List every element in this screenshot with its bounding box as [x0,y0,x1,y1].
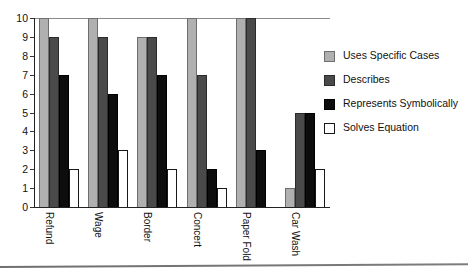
bar [187,18,197,207]
legend-label: Represents Symbolically [343,98,458,110]
bar-group [236,18,280,207]
bar [157,75,167,207]
x-axis-label: Car Wash [290,212,300,256]
x-axis-label: Paper Fold [241,212,251,261]
legend-label: Solves Equation [343,122,419,134]
bar [305,113,315,208]
y-tick-label: 6 [22,88,28,99]
legend-swatch-icon [324,75,335,86]
bar [147,37,157,207]
legend-item: Solves Equation [324,116,468,140]
bar [256,150,266,207]
chart-legend: Uses Specific CasesDescribesRepresents S… [324,44,468,140]
bar [98,37,108,207]
bar-group [137,18,181,207]
legend-swatch-icon [324,123,335,134]
y-tick-label: 5 [22,107,28,118]
bar [246,18,256,207]
y-tick-mark [30,37,34,38]
plot-area: 109876543210 RefundWageBorderConcertPape… [34,18,330,208]
y-tick-mark [30,169,34,170]
x-axis-label: Refund [44,212,54,244]
x-axis-label: Wage [93,212,103,238]
y-tick-label: 1 [22,183,28,194]
bar-group [88,18,132,207]
y-tick-label: 0 [22,202,28,213]
bar-group [187,18,231,207]
y-tick-mark [30,18,34,19]
y-tick-mark [30,131,34,132]
x-axis-label: Concert [192,212,202,247]
bar-group [39,18,83,207]
bar [295,113,305,208]
bar [59,75,69,207]
legend-item: Uses Specific Cases [324,44,468,68]
bar [69,169,79,207]
y-tick-label: 7 [22,69,28,80]
bar [108,94,118,207]
legend-label: Uses Specific Cases [343,50,439,62]
bar [285,188,295,207]
y-tick-label: 8 [22,51,28,62]
legend-swatch-icon [324,99,335,110]
page-divider-rule [0,263,468,268]
y-tick-mark [30,75,34,76]
x-axis-label: Border [142,212,152,242]
bar [49,37,59,207]
legend-label: Describes [343,74,390,86]
bar [137,37,147,207]
bar [39,18,49,207]
bar [167,169,177,207]
bar-chart-figure: 109876543210 RefundWageBorderConcertPape… [0,0,468,280]
y-tick-0: 0 [34,207,38,208]
y-tick-mark [30,188,34,189]
bar [118,150,128,207]
bar [236,18,246,207]
bar [217,188,227,207]
y-tick-mark [30,56,34,57]
y-tick-label: 10 [16,13,28,24]
y-tick-label: 2 [22,164,28,175]
bar [88,18,98,207]
legend-swatch-icon [324,51,335,62]
y-tick-mark [30,113,34,114]
bar [207,169,217,207]
legend-item: Represents Symbolically [324,92,468,116]
y-tick-mark [30,94,34,95]
y-tick-mark [30,150,34,151]
bar-groups [35,18,330,207]
bar [315,169,325,207]
y-tick-label: 3 [22,145,28,156]
y-tick-label: 4 [22,126,28,137]
y-tick-mark [30,207,34,208]
bar [197,75,207,207]
x-axis-line [34,207,330,208]
bar-group [285,18,329,207]
legend-item: Describes [324,68,468,92]
y-tick-label: 9 [22,32,28,43]
